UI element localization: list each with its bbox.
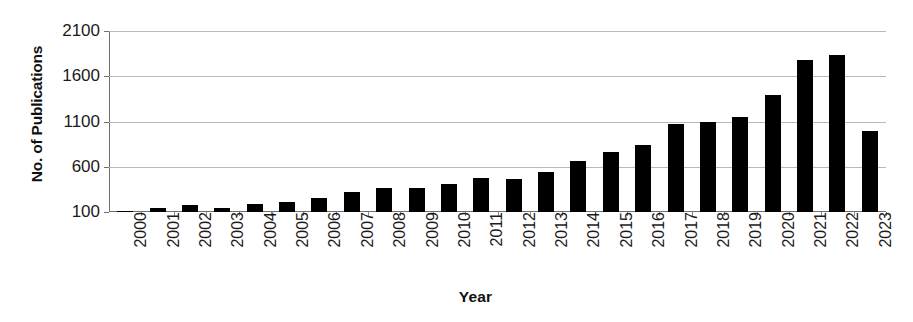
x-tick-label: 2021	[812, 212, 830, 272]
bar	[117, 211, 133, 213]
x-tick-label: 2005	[294, 212, 312, 272]
bar	[182, 205, 198, 212]
bar	[635, 145, 651, 212]
x-axis-title-text: Year	[421, 288, 493, 305]
bar	[797, 60, 813, 212]
x-tick-label: 2022	[844, 212, 862, 272]
bar	[344, 192, 360, 212]
y-tick-mark	[104, 76, 109, 77]
x-tick-label: 2006	[326, 212, 344, 272]
x-tick-label: 2007	[359, 212, 377, 272]
x-tick-label: 2023	[877, 212, 895, 272]
x-tick-label: 2018	[715, 212, 733, 272]
x-tick-label: 2001	[165, 212, 183, 272]
bar	[668, 124, 684, 212]
y-tick-label: 1600	[42, 67, 100, 84]
x-tick-label: 2009	[424, 212, 442, 272]
y-tick-label: 1100	[42, 113, 100, 130]
x-tick-label: 2004	[262, 212, 280, 272]
bar	[700, 122, 716, 213]
bar	[506, 179, 522, 212]
x-axis-tick-labels: 2000200120022003200420052006200720082009…	[109, 214, 886, 276]
y-axis-tick-labels: 100600110016002100	[38, 0, 100, 322]
gridline	[109, 31, 886, 32]
x-tick-label: 2015	[618, 212, 636, 272]
bar	[409, 188, 425, 212]
bar	[862, 131, 878, 212]
bar	[473, 178, 489, 212]
x-tick-label: 2019	[747, 212, 765, 272]
y-tick-mark	[104, 31, 109, 32]
bar-chart: No. of Publications 100600110016002100 2…	[0, 0, 913, 322]
x-tick-label: 2020	[780, 212, 798, 272]
x-axis-title: Year	[0, 288, 913, 306]
bar	[247, 204, 263, 212]
x-tick-label: 2013	[553, 212, 571, 272]
x-tick-label: 2003	[229, 212, 247, 272]
bar	[829, 55, 845, 212]
x-tick-label: 2012	[521, 212, 539, 272]
y-tick-label: 2100	[42, 22, 100, 39]
x-tick-label: 2014	[585, 212, 603, 272]
bar	[214, 208, 230, 212]
bar	[311, 198, 327, 212]
y-tick-label: 100	[42, 203, 100, 220]
gridline	[109, 76, 886, 77]
bar	[441, 184, 457, 212]
bar	[279, 202, 295, 212]
y-tick-mark	[104, 122, 109, 123]
y-tick-label: 600	[42, 158, 100, 175]
bar	[603, 152, 619, 212]
x-tick-label: 2010	[456, 212, 474, 272]
x-tick-label: 2011	[488, 212, 506, 272]
bar	[732, 117, 748, 212]
x-tick-label: 2017	[683, 212, 701, 272]
x-tick-label: 2000	[132, 212, 150, 272]
y-tick-mark	[104, 212, 109, 213]
y-tick-mark	[104, 167, 109, 168]
bar	[570, 161, 586, 212]
x-tick-label: 2002	[197, 212, 215, 272]
bar	[765, 95, 781, 212]
bar	[538, 172, 554, 212]
bar	[150, 208, 166, 212]
plot-area	[109, 31, 886, 212]
x-tick-label: 2008	[391, 212, 409, 272]
x-tick-label: 2016	[650, 212, 668, 272]
bar	[376, 188, 392, 212]
